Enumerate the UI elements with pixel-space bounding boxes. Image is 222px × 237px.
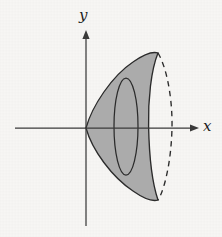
paraboloid-body-fill	[86, 52, 158, 200]
end-ellipse-back-half-dashed	[158, 53, 172, 200]
figure-canvas: x y	[0, 0, 222, 237]
y-axis-arrowhead-icon	[82, 30, 89, 39]
x-axis-arrowhead-icon	[190, 124, 199, 131]
y-axis-label: y	[79, 8, 87, 23]
x-axis-label: x	[203, 119, 211, 134]
solid-of-revolution-diagram	[0, 0, 222, 237]
